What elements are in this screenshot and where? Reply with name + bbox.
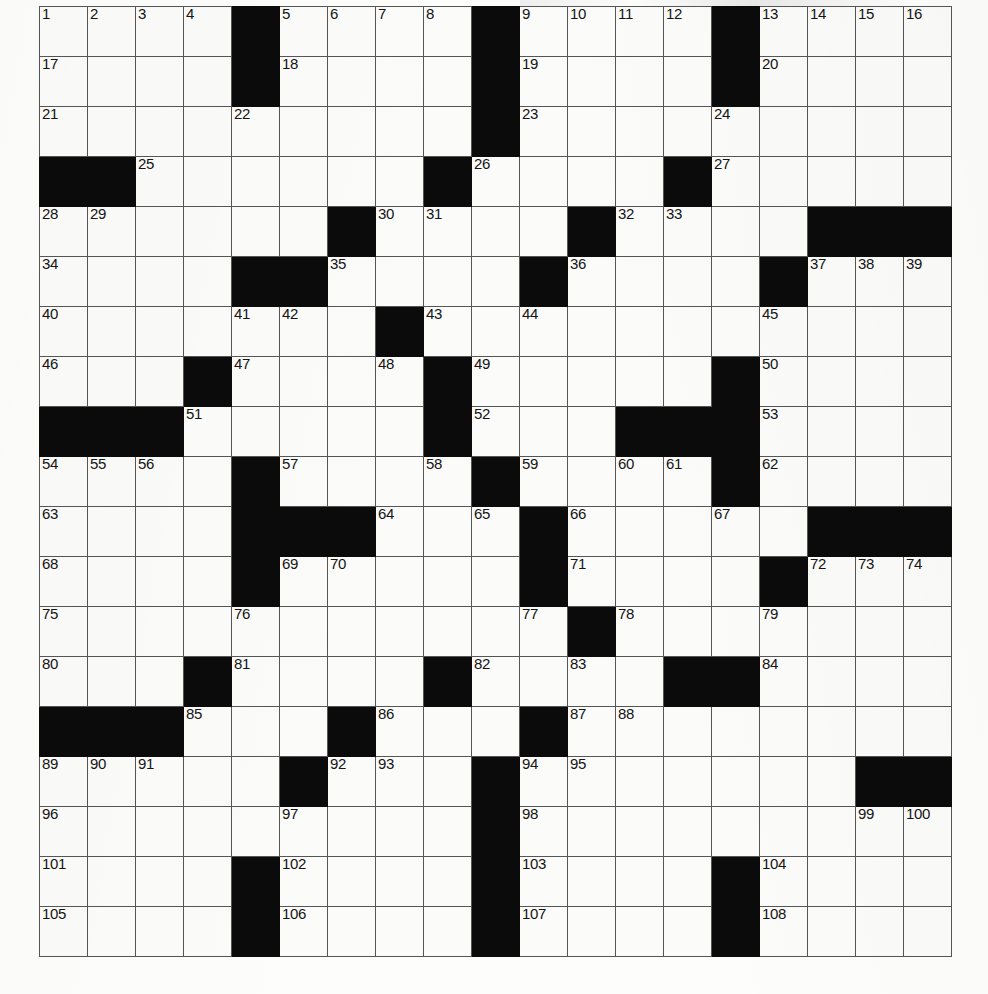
crossword-cell[interactable] <box>760 507 808 557</box>
crossword-cell[interactable]: 23 <box>520 107 568 157</box>
crossword-cell[interactable] <box>568 357 616 407</box>
crossword-cell[interactable]: 82 <box>472 657 520 707</box>
crossword-cell[interactable] <box>808 857 856 907</box>
crossword-cell[interactable] <box>856 157 904 207</box>
crossword-cell[interactable]: 64 <box>376 507 424 557</box>
crossword-cell[interactable]: 20 <box>760 57 808 107</box>
crossword-cell[interactable] <box>808 707 856 757</box>
crossword-cell[interactable] <box>136 557 184 607</box>
crossword-cell[interactable] <box>904 357 952 407</box>
crossword-cell[interactable]: 65 <box>472 507 520 557</box>
crossword-cell[interactable] <box>136 307 184 357</box>
crossword-cell[interactable] <box>88 57 136 107</box>
crossword-cell[interactable] <box>616 157 664 207</box>
crossword-cell[interactable] <box>664 57 712 107</box>
crossword-cell[interactable] <box>520 157 568 207</box>
crossword-cell[interactable] <box>712 257 760 307</box>
crossword-cell[interactable]: 33 <box>664 207 712 257</box>
crossword-cell[interactable]: 58 <box>424 457 472 507</box>
crossword-cell[interactable] <box>904 57 952 107</box>
crossword-cell[interactable]: 51 <box>184 407 232 457</box>
crossword-cell[interactable] <box>136 57 184 107</box>
crossword-cell[interactable]: 48 <box>376 357 424 407</box>
crossword-cell[interactable] <box>616 107 664 157</box>
crossword-cell[interactable] <box>808 807 856 857</box>
crossword-cell[interactable] <box>568 457 616 507</box>
crossword-cell[interactable] <box>760 207 808 257</box>
crossword-cell[interactable] <box>616 257 664 307</box>
crossword-cell[interactable]: 80 <box>40 657 88 707</box>
crossword-cell[interactable] <box>424 57 472 107</box>
crossword-cell[interactable]: 35 <box>328 257 376 307</box>
crossword-cell[interactable] <box>664 107 712 157</box>
crossword-cell[interactable] <box>760 157 808 207</box>
crossword-cell[interactable] <box>376 557 424 607</box>
crossword-cell[interactable] <box>760 757 808 807</box>
crossword-cell[interactable]: 53 <box>760 407 808 457</box>
crossword-cell[interactable] <box>280 157 328 207</box>
crossword-cell[interactable] <box>424 257 472 307</box>
crossword-cell[interactable] <box>424 757 472 807</box>
crossword-cell[interactable] <box>328 157 376 207</box>
crossword-cell[interactable] <box>280 607 328 657</box>
crossword-cell[interactable] <box>472 207 520 257</box>
crossword-cell[interactable] <box>760 807 808 857</box>
crossword-cell[interactable] <box>136 907 184 957</box>
crossword-cell[interactable] <box>568 157 616 207</box>
crossword-cell[interactable] <box>712 757 760 807</box>
crossword-cell[interactable] <box>856 407 904 457</box>
crossword-cell[interactable] <box>472 607 520 657</box>
crossword-cell[interactable] <box>664 307 712 357</box>
crossword-cell[interactable]: 43 <box>424 307 472 357</box>
crossword-cell[interactable] <box>712 307 760 357</box>
crossword-cell[interactable] <box>376 657 424 707</box>
crossword-cell[interactable] <box>664 357 712 407</box>
crossword-cell[interactable]: 1 <box>40 7 88 57</box>
crossword-cell[interactable] <box>664 507 712 557</box>
crossword-cell[interactable] <box>568 907 616 957</box>
crossword-cell[interactable] <box>616 757 664 807</box>
crossword-cell[interactable]: 31 <box>424 207 472 257</box>
crossword-cell[interactable] <box>664 257 712 307</box>
crossword-cell[interactable] <box>760 707 808 757</box>
crossword-cell[interactable]: 18 <box>280 57 328 107</box>
crossword-cell[interactable]: 13 <box>760 7 808 57</box>
crossword-cell[interactable] <box>568 57 616 107</box>
crossword-cell[interactable] <box>424 107 472 157</box>
crossword-cell[interactable]: 19 <box>520 57 568 107</box>
crossword-cell[interactable] <box>568 857 616 907</box>
crossword-cell[interactable]: 2 <box>88 7 136 57</box>
crossword-cell[interactable]: 66 <box>568 507 616 557</box>
crossword-cell[interactable]: 86 <box>376 707 424 757</box>
crossword-cell[interactable] <box>88 907 136 957</box>
crossword-cell[interactable]: 93 <box>376 757 424 807</box>
crossword-cell[interactable]: 55 <box>88 457 136 507</box>
crossword-cell[interactable]: 44 <box>520 307 568 357</box>
crossword-cell[interactable] <box>664 857 712 907</box>
crossword-cell[interactable] <box>904 707 952 757</box>
crossword-cell[interactable] <box>184 907 232 957</box>
crossword-cell[interactable] <box>856 907 904 957</box>
crossword-cell[interactable] <box>376 57 424 107</box>
crossword-cell[interactable]: 98 <box>520 807 568 857</box>
crossword-cell[interactable] <box>472 557 520 607</box>
crossword-cell[interactable] <box>136 357 184 407</box>
crossword-cell[interactable] <box>136 657 184 707</box>
crossword-cell[interactable] <box>328 657 376 707</box>
crossword-cell[interactable]: 29 <box>88 207 136 257</box>
crossword-cell[interactable]: 106 <box>280 907 328 957</box>
crossword-cell[interactable]: 11 <box>616 7 664 57</box>
crossword-cell[interactable] <box>904 157 952 207</box>
crossword-cell[interactable] <box>184 857 232 907</box>
crossword-cell[interactable]: 69 <box>280 557 328 607</box>
crossword-cell[interactable] <box>328 607 376 657</box>
crossword-cell[interactable] <box>808 607 856 657</box>
crossword-cell[interactable] <box>808 57 856 107</box>
crossword-cell[interactable] <box>856 857 904 907</box>
crossword-cell[interactable]: 100 <box>904 807 952 857</box>
crossword-cell[interactable] <box>856 607 904 657</box>
crossword-cell[interactable]: 87 <box>568 707 616 757</box>
crossword-cell[interactable]: 8 <box>424 7 472 57</box>
crossword-cell[interactable] <box>136 207 184 257</box>
crossword-cell[interactable] <box>184 557 232 607</box>
